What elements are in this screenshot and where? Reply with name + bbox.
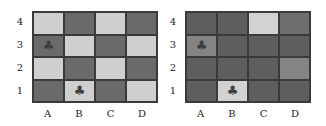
column-label: A	[32, 108, 63, 119]
cell-C2	[95, 57, 126, 80]
column-label: B	[64, 108, 95, 119]
cell-D4	[279, 12, 310, 35]
cell-A2	[33, 57, 64, 80]
cell-B1: ♣	[64, 80, 95, 103]
row-label: 1	[15, 85, 25, 96]
cell-A1	[186, 80, 217, 103]
cell-B2	[64, 57, 95, 80]
column-label: A	[185, 108, 216, 119]
club-icon: ♣	[43, 39, 55, 52]
row-label: 3	[15, 39, 25, 50]
cell-C3	[95, 35, 126, 58]
cell-B2	[217, 57, 248, 80]
right-board-grid: ♣♣	[185, 11, 311, 103]
column-label: D	[280, 108, 311, 119]
column-label: C	[95, 108, 126, 119]
club-icon: ♣	[227, 84, 239, 97]
cell-B1: ♣	[217, 80, 248, 103]
right-board-panel: ♣♣ 4321ABCD	[153, 0, 316, 126]
cell-C4	[95, 12, 126, 35]
cell-C1	[95, 80, 126, 103]
cell-B4	[217, 12, 248, 35]
cell-D2	[279, 57, 310, 80]
cell-B3	[217, 35, 248, 58]
cell-A4	[33, 12, 64, 35]
row-label: 3	[168, 39, 178, 50]
cell-A3: ♣	[33, 35, 64, 58]
club-icon: ♣	[74, 84, 86, 97]
cell-B3	[64, 35, 95, 58]
row-label: 1	[168, 85, 178, 96]
row-label: 2	[15, 62, 25, 73]
column-label: C	[248, 108, 279, 119]
cell-C3	[248, 35, 279, 58]
cell-C4	[248, 12, 279, 35]
cell-A4	[186, 12, 217, 35]
cell-B4	[64, 12, 95, 35]
column-label: B	[217, 108, 248, 119]
row-label: 2	[168, 62, 178, 73]
left-board-grid: ♣♣	[32, 11, 158, 103]
cell-A1	[33, 80, 64, 103]
cell-A2	[186, 57, 217, 80]
cell-C2	[248, 57, 279, 80]
club-icon: ♣	[196, 39, 208, 52]
cell-C1	[248, 80, 279, 103]
row-label: 4	[15, 16, 25, 27]
left-board-panel: ♣♣ 4321ABCD	[0, 0, 163, 126]
cell-D3	[279, 35, 310, 58]
cell-D1	[279, 80, 310, 103]
row-label: 4	[168, 16, 178, 27]
cell-A3: ♣	[186, 35, 217, 58]
